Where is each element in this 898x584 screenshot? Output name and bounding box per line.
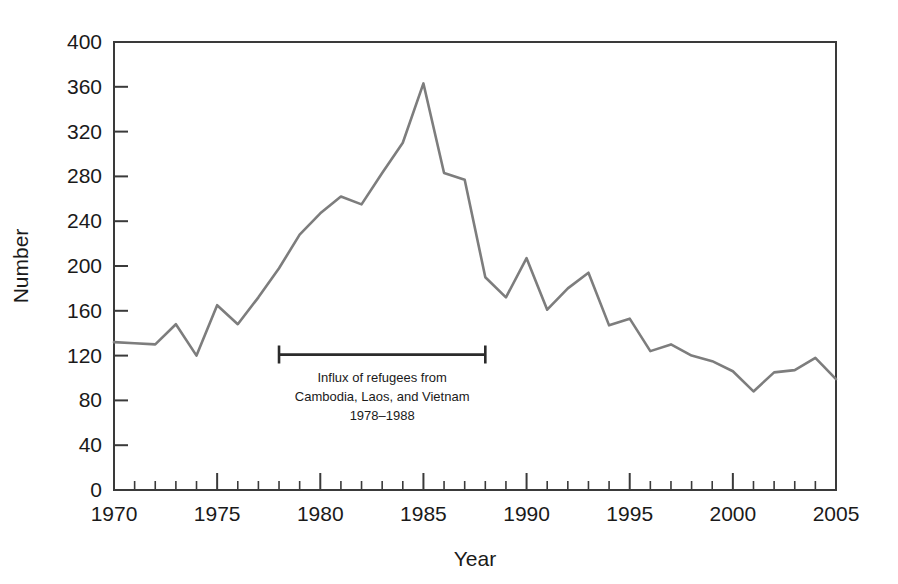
y-tick-label-320: 320	[67, 120, 102, 143]
y-tick-label-240: 240	[67, 209, 102, 232]
x-axis-title: Year	[454, 547, 496, 570]
y-tick-label-200: 200	[67, 254, 102, 277]
y-tick-label-120: 120	[67, 344, 102, 367]
x-tick-label-1990: 1990	[503, 502, 550, 525]
y-axis-title: Number	[9, 229, 32, 304]
x-axis-tick-labels: 19701975198019851990199520002005	[91, 502, 860, 525]
y-tick-label-160: 160	[67, 299, 102, 322]
y-tick-label-0: 0	[90, 478, 102, 501]
x-tick-label-1995: 1995	[606, 502, 653, 525]
refugee-influx-bracket	[279, 346, 485, 364]
x-tick-label-1975: 1975	[194, 502, 241, 525]
annotation-line-3: 1978–1988	[350, 408, 415, 423]
y-tick-label-280: 280	[67, 164, 102, 187]
y-axis-ticks	[114, 87, 128, 490]
y-axis-tick-labels: 04080120160200240280320360400	[67, 30, 102, 501]
x-axis-major-ticks	[114, 473, 836, 490]
data-series-line	[114, 83, 836, 391]
line-chart-svg: 04080120160200240280320360400 1970197519…	[0, 0, 898, 584]
x-tick-label-2005: 2005	[813, 502, 860, 525]
annotation-line-1: Influx of refugees from	[317, 370, 446, 385]
y-tick-label-360: 360	[67, 75, 102, 98]
x-tick-label-1970: 1970	[91, 502, 138, 525]
x-tick-label-2000: 2000	[709, 502, 756, 525]
y-tick-label-40: 40	[79, 433, 102, 456]
x-tick-label-1985: 1985	[400, 502, 447, 525]
y-tick-label-400: 400	[67, 30, 102, 53]
x-axis-minor-ticks	[135, 481, 816, 490]
annotation-line-2: Cambodia, Laos, and Vietnam	[295, 389, 470, 404]
x-tick-label-1980: 1980	[297, 502, 344, 525]
chart-figure: 04080120160200240280320360400 1970197519…	[0, 0, 898, 584]
y-tick-label-80: 80	[79, 388, 102, 411]
plot-frame	[114, 42, 836, 490]
